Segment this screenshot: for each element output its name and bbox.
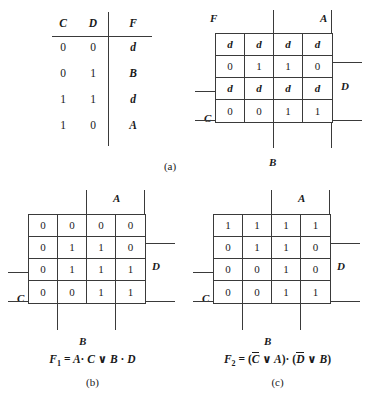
kmap-cell: 0 — [243, 259, 272, 281]
formula-f1-name: F — [49, 353, 57, 365]
column-header-c: C — [48, 12, 78, 34]
kmap-cell: 1 — [87, 281, 116, 303]
kmap-cell: 1 — [272, 281, 301, 303]
kmap-c-bracket-b-left — [242, 302, 243, 330]
formula-f2-name: F — [224, 353, 232, 365]
kmap-b-label-c: C — [17, 292, 24, 304]
kmap-c-label-b: B — [264, 335, 271, 347]
kmap-cell: 1 — [272, 237, 301, 259]
cell-c: 0 — [48, 60, 78, 86]
formula-f1-term-a: A — [73, 353, 81, 365]
cell-c: 1 — [48, 112, 78, 138]
kmap-cell: 0 — [29, 281, 58, 303]
formula-f1-term-c: C — [87, 353, 95, 365]
kmap-cell: 1 — [245, 56, 274, 78]
kmap-b-bracket-d-bottom — [143, 301, 175, 302]
kmap-c-bracket-b-right — [300, 302, 301, 330]
kmap-panel-b: A D C B 0 0 0 0 0 1 1 0 0 1 1 1 0 0 1 1 — [0, 180, 185, 404]
truth-table: C D F 0 0 d 0 1 B 1 1 — [48, 12, 158, 138]
kmap-a-bracket-b-right — [331, 120, 332, 148]
kmap-cell: 0 — [87, 215, 116, 237]
caption-c: (c) — [185, 376, 370, 388]
column-header-f: F — [108, 12, 158, 34]
kmap-cell: 0 — [214, 281, 243, 303]
kmap-cell: 1 — [243, 237, 272, 259]
kmap-cell: d — [274, 34, 303, 56]
cell-f: A — [108, 112, 158, 138]
caption-b: (b) — [0, 376, 185, 388]
formula-f2-term-d-negated: D — [296, 352, 304, 365]
kmap-cell: d — [245, 78, 274, 100]
formula-f2-or-2: ∨ — [307, 353, 316, 365]
kmap-cell: 1 — [301, 215, 330, 237]
kmap-cell: 0 — [58, 215, 87, 237]
formula-f2-equals: = — [238, 353, 245, 365]
kmap-cell: 0 — [243, 281, 272, 303]
kmap-cell: 0 — [301, 259, 330, 281]
kmap-cell: 0 — [58, 281, 87, 303]
kmap-cell: 0 — [116, 215, 145, 237]
table-header-row: C D F — [48, 12, 158, 34]
kmap-a-label-d: D — [341, 80, 349, 92]
kmap-cell: 0 — [29, 237, 58, 259]
kmap-cell: 0 — [29, 215, 58, 237]
table-row: 0 1 B — [48, 60, 158, 86]
karnaugh-map-figure: C D F 0 0 d 0 1 B 1 1 — [0, 0, 370, 404]
kmap-cell: d — [216, 78, 245, 100]
truth-table-vertical-divider — [108, 12, 109, 146]
kmap-b-bracket-b-left — [57, 302, 58, 330]
column-header-d: D — [78, 12, 108, 34]
kmap-cell: 0 — [214, 237, 243, 259]
kmap-c-label-d: D — [337, 260, 345, 272]
formula-f2-subscript: 2 — [232, 359, 236, 368]
kmap-c-bracket-a-right — [329, 190, 330, 214]
formula-f1-and-2: · — [121, 353, 125, 365]
cell-c: 1 — [48, 86, 78, 112]
kmap-cell: d — [216, 34, 245, 56]
formula-f1-and-1: · — [81, 353, 85, 365]
kmap-c-bracket-a-left — [271, 190, 272, 214]
cell-f: B — [108, 60, 158, 86]
kmap-cell: 1 — [87, 259, 116, 281]
kmap-b-grid: 0 0 0 0 0 1 1 0 0 1 1 1 0 0 1 1 — [28, 214, 146, 304]
kmap-cell: 1 — [243, 215, 272, 237]
formula-f2: F2 = (C ∨ A)· (D ∨ B) — [185, 352, 370, 368]
kmap-b-bracket-a-right — [144, 190, 145, 214]
kmap-cell: 1 — [274, 100, 303, 122]
kmap-a-label-b: B — [269, 156, 276, 168]
kmap-a-label-c: C — [204, 112, 211, 124]
table-row: 1 0 A — [48, 112, 158, 138]
kmap-cell: 1 — [272, 215, 301, 237]
kmap-cell: 1 — [303, 100, 332, 122]
kmap-cell: 0 — [216, 56, 245, 78]
kmap-panel-a: F A D C B d d d d 0 1 1 0 d d d d 0 0 1 — [185, 0, 370, 180]
kmap-cell: 0 — [301, 237, 330, 259]
formula-f2-and: · — [286, 353, 290, 365]
kmap-cell: 0 — [116, 237, 145, 259]
kmap-cell: 0 — [214, 259, 243, 281]
kmap-cell: 1 — [58, 259, 87, 281]
table-row: 1 1 d — [48, 86, 158, 112]
formula-f1: F1 = A· C ∨ B · D — [0, 352, 185, 368]
formula-f1-term-b: B — [110, 353, 118, 365]
kmap-cell: 0 — [29, 259, 58, 281]
cell-d: 0 — [78, 34, 108, 60]
formula-f1-or: ∨ — [98, 353, 107, 365]
formula-f2-or-1: ∨ — [262, 353, 271, 365]
kmap-c-bracket-d-top — [328, 243, 360, 244]
formula-f1-term-d: D — [127, 353, 135, 365]
kmap-cell: d — [303, 78, 332, 100]
kmap-a-bracket-a-right — [331, 10, 332, 34]
formula-f2-term-c-negated: C — [252, 352, 260, 365]
kmap-cell: d — [245, 34, 274, 56]
formula-f2-paren-close-2: ) — [327, 353, 331, 365]
kmap-cell: 1 — [214, 215, 243, 237]
kmap-a-label-f: F — [210, 12, 217, 24]
kmap-cell: 1 — [301, 281, 330, 303]
cell-d: 1 — [78, 86, 108, 112]
kmap-a-bracket-d-bottom — [330, 120, 362, 121]
formula-f2-term-a: A — [274, 353, 282, 365]
kmap-b-label-a: A — [113, 192, 120, 204]
cell-f: d — [108, 34, 158, 60]
cell-f: d — [108, 86, 158, 112]
